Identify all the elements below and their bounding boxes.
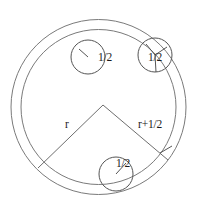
small-circle-top-left-radius — [79, 49, 88, 57]
label-small-circle-top-right: 1/2 — [148, 51, 162, 63]
label-small-circle-top-left: 1/2 — [98, 51, 112, 63]
label-small-circle-bottom: 1/2 — [116, 157, 130, 169]
radius-segment-left — [38, 105, 103, 168]
label-inner-radius: r — [65, 118, 69, 130]
radius-segment-right — [103, 105, 168, 160]
geometry-canvas — [0, 0, 199, 214]
outer-circle — [11, 20, 186, 195]
rim-tick-mark — [160, 146, 172, 153]
label-outer-radius: r+1/2 — [138, 118, 162, 130]
geometry-diagram: 1/2 1/2 1/2 r r+1/2 — [0, 0, 199, 214]
